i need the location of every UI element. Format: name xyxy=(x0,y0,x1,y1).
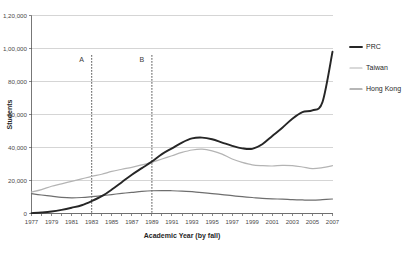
x-tick-label: 1985 xyxy=(105,219,119,225)
legend-label-prc: PRC xyxy=(366,43,381,50)
x-tick-label: 2001 xyxy=(266,219,280,225)
y-tick-label: 40,000 xyxy=(8,144,27,151)
x-tick-label: 1987 xyxy=(125,219,139,225)
x-tick-label: 1989 xyxy=(145,219,159,225)
x-tick-label: 1981 xyxy=(65,219,79,225)
y-tick-label: 20,000 xyxy=(8,177,27,184)
y-tick-label: 1,00,000 xyxy=(3,45,28,52)
x-tick-label: 2003 xyxy=(286,219,300,225)
y-tick-label: 0 xyxy=(24,210,28,217)
legend-label-taiwan: Taiwan xyxy=(366,64,388,71)
y-axis-title: Students xyxy=(6,99,13,129)
x-tick-labels: 1977197919811983198519871989199119931995… xyxy=(25,219,340,225)
x-tick-label: 1977 xyxy=(25,219,39,225)
x-tick-label: 1993 xyxy=(185,219,199,225)
annotation-label-b: B xyxy=(140,56,145,63)
axes xyxy=(29,16,333,217)
legend-label-hong-kong: Hong Kong xyxy=(366,85,401,93)
x-tick-label: 2007 xyxy=(326,219,340,225)
y-tick-label: 1,20,000 xyxy=(3,12,28,19)
x-tick-label: 1983 xyxy=(85,219,99,225)
line-chart: 020,00040,00060,00080,0001,00,0001,20,00… xyxy=(0,0,420,260)
x-axis-title: Academic Year (by fall) xyxy=(144,232,221,240)
x-tick-label: 1995 xyxy=(205,219,219,225)
series-line-hong-kong xyxy=(32,191,333,201)
series-line-taiwan xyxy=(32,149,333,192)
series-line-prc xyxy=(32,52,333,213)
gridlines xyxy=(32,16,333,214)
x-tick-label: 1999 xyxy=(246,219,260,225)
annotation-lines xyxy=(92,55,152,213)
chart-container: 020,00040,00060,00080,0001,00,0001,20,00… xyxy=(0,0,420,260)
y-tick-label: 80,000 xyxy=(8,78,27,85)
x-tick-label: 1997 xyxy=(225,219,239,225)
chart-legend: PRCTaiwanHong Kong xyxy=(350,43,401,93)
annotation-labels: AB xyxy=(79,56,144,63)
x-tick-label: 2005 xyxy=(306,219,320,225)
annotation-label-a: A xyxy=(79,56,84,63)
x-tick-label: 1991 xyxy=(165,219,179,225)
data-series xyxy=(32,52,333,213)
x-tick-label: 1979 xyxy=(45,219,59,225)
